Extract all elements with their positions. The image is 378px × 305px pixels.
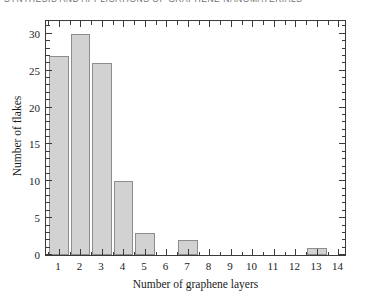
axis-tick (91, 252, 92, 256)
axis-tick (220, 252, 221, 256)
axis-tick (123, 21, 124, 27)
axis-tick (46, 254, 52, 255)
axis-tick (285, 21, 286, 25)
axis-tick (46, 84, 50, 85)
axis-tick (295, 21, 296, 27)
axis-tick (113, 252, 114, 256)
axis-tick (342, 210, 346, 211)
axis-tick (46, 195, 50, 196)
axis-tick (188, 249, 189, 255)
axis-tick (342, 173, 346, 174)
axis-tick (113, 21, 114, 25)
axis-tick (328, 21, 329, 25)
axis-tick (46, 107, 52, 108)
axis-tick (70, 252, 71, 256)
axis-tick (177, 252, 178, 256)
axis-tick (209, 249, 210, 255)
axis-tick (46, 62, 50, 63)
axis-tick (242, 21, 243, 25)
axis-tick (242, 252, 243, 256)
axis-tick (188, 21, 189, 27)
axis-tick (342, 114, 346, 115)
axis-tick (46, 55, 50, 56)
axis-tick (285, 252, 286, 256)
plot-area (45, 20, 346, 256)
axis-tick (342, 232, 346, 233)
axis-tick (338, 21, 339, 27)
axis-tick (263, 252, 264, 256)
y-tick-label: 30 (8, 28, 40, 40)
axis-tick (220, 21, 221, 25)
x-tick-label: 14 (322, 260, 352, 272)
axis-tick (46, 143, 52, 144)
axis-tick (46, 92, 50, 93)
axis-tick (123, 249, 124, 255)
axis-tick (46, 158, 50, 159)
axis-tick (80, 249, 81, 255)
axis-tick (46, 33, 52, 34)
axis-tick (80, 21, 81, 27)
axis-tick (339, 70, 345, 71)
axis-tick (46, 99, 50, 100)
axis-tick (342, 225, 346, 226)
axis-tick (339, 33, 345, 34)
axis-tick (342, 92, 346, 93)
axis-tick (339, 180, 345, 181)
axis-tick (145, 249, 146, 255)
axis-tick (46, 180, 52, 181)
axis-tick (231, 249, 232, 255)
axis-tick (46, 77, 50, 78)
axis-tick (342, 239, 346, 240)
axis-tick (342, 84, 346, 85)
histogram-bar (49, 56, 69, 255)
axis-tick (306, 21, 307, 25)
axis-tick (274, 21, 275, 27)
axis-tick (156, 21, 157, 25)
axis-tick (46, 136, 50, 137)
axis-tick (317, 21, 318, 27)
axis-tick (306, 252, 307, 256)
axis-tick (46, 70, 52, 71)
histogram-bar (114, 181, 134, 255)
axis-tick (199, 252, 200, 256)
axis-tick (145, 21, 146, 27)
axis-tick (46, 114, 50, 115)
axis-tick (342, 151, 346, 152)
axis-tick (70, 21, 71, 25)
axis-tick (339, 107, 345, 108)
axis-tick (46, 166, 50, 167)
axis-tick (46, 202, 50, 203)
axis-tick (46, 173, 50, 174)
axis-tick (102, 249, 103, 255)
axis-tick (102, 21, 103, 27)
axis-tick (46, 247, 50, 248)
axis-tick (166, 21, 167, 27)
axis-tick (342, 55, 346, 56)
axis-tick (231, 21, 232, 27)
axis-tick (263, 21, 264, 25)
axis-tick (295, 249, 296, 255)
axis-tick (328, 252, 329, 256)
axis-tick (342, 158, 346, 159)
bars-layer (46, 21, 345, 255)
axis-tick (342, 121, 346, 122)
axis-tick (209, 21, 210, 27)
axis-tick (342, 129, 346, 130)
histogram-bar (71, 34, 91, 255)
axis-tick (342, 62, 346, 63)
axis-tick (199, 21, 200, 25)
axis-tick (342, 48, 346, 49)
axis-tick (46, 225, 50, 226)
axis-tick (59, 249, 60, 255)
axis-tick (342, 195, 346, 196)
axis-tick (46, 151, 50, 152)
axis-tick (342, 247, 346, 248)
axis-tick (342, 99, 346, 100)
axis-tick (342, 166, 346, 167)
axis-tick (339, 143, 345, 144)
axis-tick (46, 25, 50, 26)
axis-tick (166, 249, 167, 255)
axis-tick (342, 136, 346, 137)
y-tick-label: 0 (8, 249, 40, 261)
axis-tick (252, 21, 253, 27)
